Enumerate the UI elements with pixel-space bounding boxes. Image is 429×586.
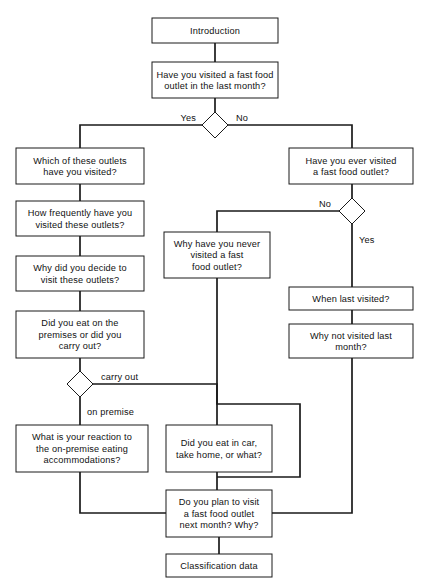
box-shape <box>16 256 144 291</box>
edge-reaction-to-plan <box>80 472 166 513</box>
edge-decision-no-branch <box>228 125 352 148</box>
decision-shape <box>339 198 365 224</box>
node-decision-visited-last-month[interactable] <box>202 112 228 138</box>
node-which-outlets[interactable]: Which of these outletshave you visited? <box>16 148 144 184</box>
node-why-not-visited-last-month[interactable]: Why not visited lastmonth? <box>289 324 413 358</box>
box-shape <box>289 324 413 358</box>
node-why-never-visited[interactable]: Why have you nevervisited a fastfood out… <box>164 232 270 278</box>
edge-label-label-on-premise: on premise <box>87 407 134 417</box>
box-shape <box>152 62 278 98</box>
node-label: Introduction <box>190 26 240 36</box>
decision-shape <box>67 371 93 397</box>
node-label: Why did you decide tovisit these outlets… <box>33 263 127 285</box>
edge-carryout-branch <box>93 384 217 425</box>
edge-whynot-to-plan <box>272 358 352 513</box>
edge-ever-no-branch <box>217 211 339 232</box>
node-ever-visited[interactable]: Have you ever visiteda fast food outlet? <box>289 148 413 184</box>
node-label: Classification data <box>180 561 258 571</box>
box-shape <box>16 201 144 236</box>
node-label: Have you ever visiteda fast food outlet? <box>306 156 397 178</box>
node-introduction[interactable]: Introduction <box>152 18 278 43</box>
box-shape <box>16 148 144 184</box>
box-shape <box>166 425 272 472</box>
edge-label-label-no-last-month: No <box>236 113 248 123</box>
node-label: Have you visited a fast foodoutlet in th… <box>156 70 273 92</box>
edge-label-label-yes-ever: Yes <box>359 235 375 245</box>
edge-label-label-no-ever: No <box>319 199 331 209</box>
node-how-frequently[interactable]: How frequently have youvisited these out… <box>16 201 144 236</box>
node-label: When last visited? <box>312 294 389 304</box>
flowchart-canvas: IntroductionHave you visited a fast food… <box>0 0 429 586</box>
decision-shape <box>202 112 228 138</box>
node-when-last-visited[interactable]: When last visited? <box>289 287 413 310</box>
node-eat-on-premises[interactable]: Did you eat on thepremises or did youcar… <box>16 311 144 358</box>
node-label: Did you eat in car,take home, or what? <box>176 438 262 460</box>
edge-label-label-carry-out: carry out <box>101 372 138 382</box>
node-reaction-on-premise[interactable]: What is your reaction tothe on-premise e… <box>16 425 148 472</box>
node-label: Do you plan to visita fast food outletne… <box>179 497 260 530</box>
node-classification-data[interactable]: Classification data <box>166 554 272 577</box>
flowchart-diagram: IntroductionHave you visited a fast food… <box>0 0 429 586</box>
node-label: How frequently have youvisited these out… <box>28 208 133 230</box>
node-decision-premise-carryout[interactable] <box>67 371 93 397</box>
node-decision-ever-visited[interactable] <box>339 198 365 224</box>
edge-label-label-yes-last-month: Yes <box>181 113 197 123</box>
node-why-decide-visit[interactable]: Why did you decide tovisit these outlets… <box>16 256 144 291</box>
node-label: What is your reaction tothe on-premise e… <box>32 432 132 465</box>
node-visited-last-month[interactable]: Have you visited a fast foodoutlet in th… <box>152 62 278 98</box>
box-shape <box>289 148 413 184</box>
node-label: Which of these outletshave you visited? <box>33 156 127 178</box>
node-eat-in-car[interactable]: Did you eat in car,take home, or what? <box>166 425 272 472</box>
edge-decision-yes-branch <box>80 125 202 148</box>
node-plan-to-visit[interactable]: Do you plan to visita fast food outletne… <box>166 490 272 537</box>
